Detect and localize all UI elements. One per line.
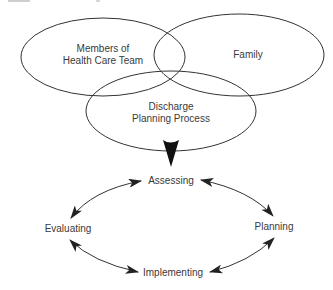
- discharge-label-line2: Planning Process: [132, 113, 210, 124]
- assessing-label: Assessing: [148, 175, 194, 186]
- implementing-label: Implementing: [143, 267, 203, 278]
- evaluating-label: Evaluating: [45, 223, 92, 234]
- members-label-line1: Members of: [77, 43, 130, 54]
- members-label-line2: Health Care Team: [63, 55, 143, 66]
- discharge-planning-diagram: Members of Health Care Team Family Disch…: [0, 0, 333, 290]
- discharge-label-line1: Discharge: [148, 101, 193, 112]
- planning-implementing-arrow: [210, 238, 274, 272]
- cropped-caption-fragment: [96, 0, 100, 2]
- cropped-caption-fragment: [8, 0, 30, 2]
- assessing-planning-arrow: [201, 180, 273, 216]
- planning-label: Planning: [255, 221, 294, 232]
- down-arrow-icon: [163, 140, 179, 167]
- evaluating-assessing-arrow: [71, 181, 141, 218]
- implementing-evaluating-arrow: [70, 240, 138, 272]
- family-label: Family: [233, 49, 262, 60]
